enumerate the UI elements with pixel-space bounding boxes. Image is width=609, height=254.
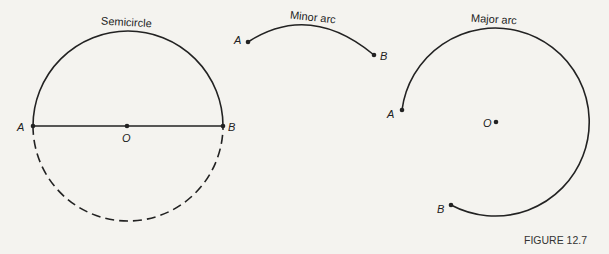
- semicircle-arc: [33, 31, 223, 126]
- center-o-dot: [125, 124, 130, 129]
- minor-arc: [248, 25, 374, 55]
- minor-point-a-label: A: [233, 34, 241, 46]
- major-point-a-label: A: [386, 108, 394, 120]
- major-point-b-label: B: [437, 203, 444, 215]
- minor-arc-figure: Minor arc A B: [233, 9, 387, 62]
- semicircle-point-b-label: B: [228, 121, 235, 133]
- point-a-dot: [31, 124, 36, 129]
- major-point-b-dot: [449, 203, 454, 208]
- major-arc-figure: Major arc A B O: [386, 12, 589, 216]
- major-point-a-dot: [400, 108, 405, 113]
- semicircle-figure: Semicircle A B O: [16, 15, 235, 221]
- minor-arc-label: Minor arc: [289, 9, 336, 26]
- figure-caption: FIGURE 12.7: [524, 234, 587, 246]
- figure-canvas: Semicircle A B O Minor arc A B Major arc…: [0, 0, 609, 254]
- semicircle-point-a-label: A: [16, 121, 24, 133]
- point-b-dot: [221, 124, 226, 129]
- minor-point-b-dot: [372, 53, 377, 58]
- semicircle-label: Semicircle: [101, 15, 152, 30]
- major-center-o-dot: [494, 120, 499, 125]
- minor-point-b-label: B: [380, 50, 387, 62]
- semicircle-center-label: O: [122, 132, 131, 144]
- major-center-label: O: [483, 117, 492, 129]
- minor-point-a-dot: [246, 40, 251, 45]
- major-arc-label: Major arc: [471, 12, 518, 26]
